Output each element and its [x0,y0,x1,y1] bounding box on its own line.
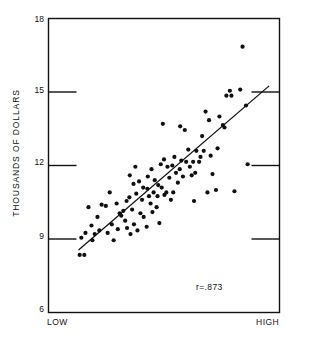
y-tick-label-18: 18 [22,14,44,24]
data-point [118,211,122,215]
data-point [86,205,90,209]
data-point [162,157,166,161]
axes-frame [49,19,280,313]
data-point [192,199,196,203]
data-point [178,167,182,171]
data-point [244,103,248,107]
data-point [141,185,145,189]
data-point [186,147,190,151]
data-point [145,225,149,229]
data-point [246,162,250,166]
data-point [125,226,129,230]
data-point [100,203,104,207]
data-point [90,238,94,242]
data-point [160,185,164,189]
correlation-annotation: r=.873 [196,282,223,292]
data-point [146,174,150,178]
data-point [138,211,142,215]
data-point [215,146,219,150]
data-point [184,160,188,164]
data-point [149,201,153,205]
data-point [172,155,176,159]
data-point [131,182,135,186]
axis-tick-marks [49,92,280,239]
data-point [116,227,120,231]
data-point [93,232,97,236]
data-point [140,198,144,202]
data-point [128,173,132,177]
data-point [222,125,226,129]
x-axis-high-label: HIGH [256,317,279,327]
data-point [188,165,192,169]
data-point [193,171,197,175]
data-point [176,181,180,185]
data-point [132,222,136,226]
data-point [152,190,156,194]
scatter-plot-figure: THOUSANDS OF DOLLARS 18 15 12 9 6 LOW HI… [0,0,313,353]
y-tick-label-6: 6 [22,304,44,314]
data-point [137,179,141,183]
data-point [106,231,110,235]
data-point [200,134,204,138]
data-point [147,194,151,198]
trendline-segment [79,86,270,250]
data-point [130,208,134,212]
plot-canvas [0,0,313,353]
data-point [104,204,108,208]
data-point [194,149,198,153]
data-point [82,253,86,257]
data-point [128,232,132,236]
data-point [171,190,175,194]
data-point [209,154,213,158]
data-point [112,238,116,242]
y-tick-label-12: 12 [22,157,44,167]
data-point [224,94,228,98]
data-point [240,45,244,49]
data-point [127,195,131,199]
data-point [197,160,201,164]
data-point [79,236,83,240]
data-point [135,228,139,232]
data-point [123,219,127,223]
y-axis-title: THOUSANDS OF DOLLARS [11,63,21,243]
data-point [203,110,207,114]
data-point [89,223,93,227]
data-point [198,155,202,159]
data-point [164,190,168,194]
data-point [205,190,209,194]
data-point [210,172,214,176]
data-point [134,192,138,196]
data-point [169,198,173,202]
data-point [133,165,137,169]
data-point [229,94,233,98]
data-point [217,114,221,118]
data-point [150,210,154,214]
y-tick-label-15: 15 [22,85,44,95]
data-point [165,165,169,169]
data-point [159,162,163,166]
data-point [161,122,165,126]
data-point [115,201,119,205]
data-point [97,228,101,232]
data-point [179,159,183,163]
data-point [110,222,114,226]
data-point [238,87,242,91]
data-point [157,221,161,225]
data-point [153,178,157,182]
data-point [156,183,160,187]
data-point [108,190,112,194]
data-point [178,124,182,128]
x-axis-low-label: LOW [47,317,68,327]
data-point [167,176,171,180]
data-point-group [78,45,250,257]
data-point [202,149,206,153]
data-point [170,163,174,167]
data-point [190,173,194,177]
data-point [145,187,149,191]
data-point [155,205,159,209]
data-point [95,215,99,219]
data-point [83,231,87,235]
data-point [78,253,82,257]
data-point [121,209,125,213]
data-point [142,215,146,219]
